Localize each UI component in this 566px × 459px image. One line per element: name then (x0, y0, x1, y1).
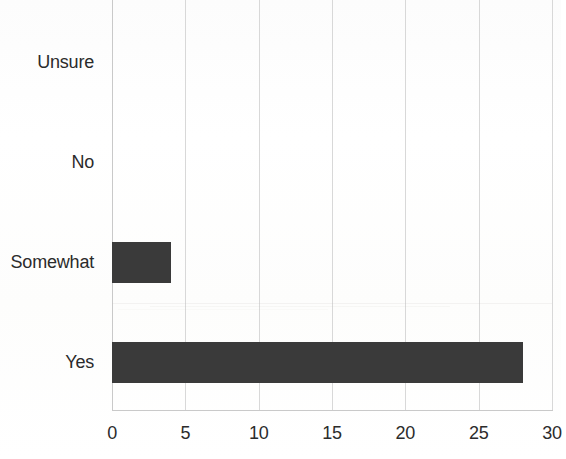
x-axis-line (112, 410, 553, 411)
gridline-30 (552, 0, 553, 411)
bar-somewhat[interactable] (112, 242, 171, 283)
x-tick-label-5: 5 (155, 422, 215, 444)
bar-yes[interactable] (112, 342, 523, 383)
x-tick-label-10: 10 (229, 422, 289, 444)
x-tick-label-15: 15 (302, 422, 362, 444)
plot-area (112, 0, 552, 411)
y-axis-label-somewhat: Somewhat (0, 252, 94, 272)
y-axis-category-labels: UnsureNoSomewhatYes (0, 0, 94, 411)
y-axis-label-unsure: Unsure (0, 52, 94, 72)
y-axis-label-yes: Yes (0, 352, 94, 372)
x-tick-label-20: 20 (375, 422, 435, 444)
x-tick-label-30: 30 (522, 422, 566, 444)
x-tick-label-0: 0 (82, 422, 142, 444)
x-tick-label-25: 25 (449, 422, 509, 444)
y-axis-label-no: No (0, 152, 94, 172)
